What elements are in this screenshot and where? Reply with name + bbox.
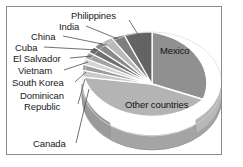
label-cuba: Cuba xyxy=(15,42,37,53)
label-india: India xyxy=(59,21,79,32)
label-south-korea: South Korea xyxy=(12,77,64,88)
leader-line-china xyxy=(63,36,107,45)
label-dominican-republic-line2: Republic xyxy=(24,101,60,112)
label-other-countries: Other countries xyxy=(125,99,188,110)
label-canada: Canada xyxy=(33,138,66,149)
label-mexico: Mexico xyxy=(160,45,190,56)
label-el-salvador: El Salvador xyxy=(13,53,60,64)
chart-area: Philippines India China Cuba El Salvador… xyxy=(0,0,243,167)
label-dominican-republic-line1: Dominican xyxy=(20,90,64,101)
leader-line-cuba xyxy=(44,47,98,50)
label-philippines: Philippines xyxy=(71,10,116,21)
leader-line-india xyxy=(86,26,118,39)
label-china: China xyxy=(31,31,55,42)
pie-chart-figure: Philippines India China Cuba El Salvador… xyxy=(0,0,243,167)
label-vietnam: Vietnam xyxy=(18,65,52,76)
